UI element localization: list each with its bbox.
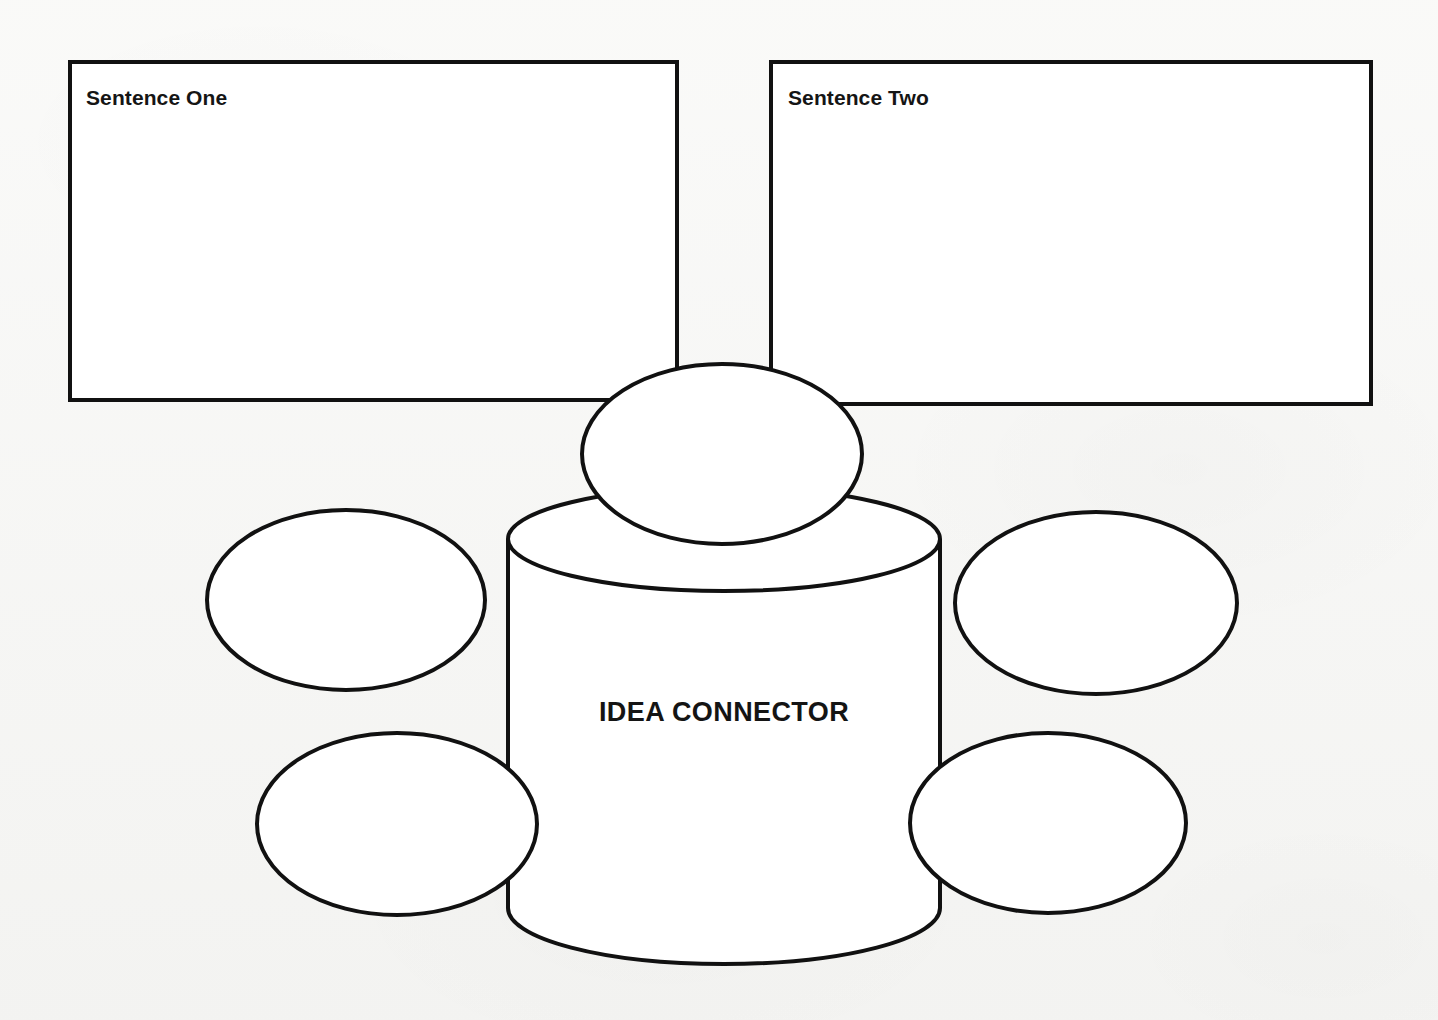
bubble-upper-right[interactable]	[955, 512, 1237, 694]
sentence-one-box-outline[interactable]	[70, 62, 677, 400]
bubble-top[interactable]	[582, 364, 862, 544]
sentence-two-box[interactable]	[771, 62, 1371, 404]
bubble-lower-left[interactable]	[257, 733, 537, 915]
sentence-one-label: Sentence One	[86, 86, 227, 110]
worksheet-canvas: Sentence One Sentence Two IDEA CONNECTOR	[0, 0, 1438, 1020]
sentence-one-box[interactable]	[70, 62, 677, 400]
idea-connector-label: IDEA CONNECTOR	[508, 697, 940, 728]
sentence-two-label: Sentence Two	[788, 86, 929, 110]
bubble-lower-right[interactable]	[910, 733, 1186, 913]
diagram-artwork	[0, 0, 1438, 1020]
cylinder-body-fill	[508, 539, 940, 964]
sentence-two-box-outline[interactable]	[771, 62, 1371, 404]
bubble-upper-left[interactable]	[207, 510, 485, 690]
